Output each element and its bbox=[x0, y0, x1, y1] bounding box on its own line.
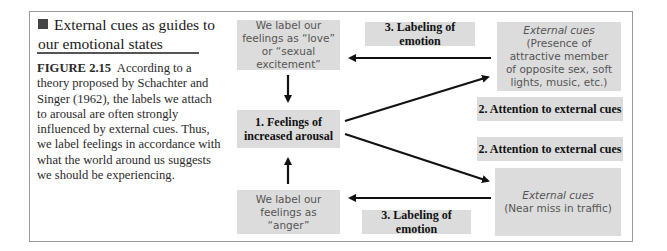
external-cues-top-text: External cues (Presence of attractive me… bbox=[503, 24, 615, 89]
attention-top-box: 2. Attention to external cues bbox=[477, 97, 623, 121]
labeling-top-box: 3. Labeling of emotion bbox=[365, 22, 475, 46]
external-cues-top-heading: External cues bbox=[523, 24, 594, 36]
external-cues-bottom-detail: (Near miss in traffic) bbox=[504, 202, 612, 215]
labeling-bottom-text: 3. Labeling of emotion bbox=[362, 208, 471, 236]
arrow-diagonal-up-icon bbox=[345, 77, 488, 121]
label-anger-box: We label our feelings as “anger” bbox=[237, 190, 340, 234]
label-anger-text: We label our feelings as “anger” bbox=[247, 193, 330, 232]
arousal-box: 1. Feelings of increased arousal bbox=[237, 110, 340, 148]
external-cues-top-box: External cues (Presence of attractive me… bbox=[497, 22, 621, 91]
labeling-bottom-box: 3. Labeling of emotion bbox=[362, 210, 471, 234]
arousal-text: 1. Feelings of increased arousal bbox=[243, 115, 334, 143]
external-cues-bottom-heading: External cues bbox=[522, 189, 593, 202]
external-cues-top-detail: (Presence of attractive member of opposi… bbox=[506, 37, 612, 88]
arrow-diagonal-down-icon bbox=[345, 134, 488, 181]
attention-bottom-box: 2. Attention to external cues bbox=[477, 137, 623, 161]
label-love-box: We label our feelings as “love” or “sexu… bbox=[237, 20, 340, 70]
labeling-top-text: 3. Labeling of emotion bbox=[365, 20, 475, 48]
label-love-text: We label our feelings as “love” or “sexu… bbox=[241, 19, 336, 71]
attention-bottom-text: 2. Attention to external cues bbox=[479, 142, 622, 156]
external-cues-bottom-box: External cues(Near miss in traffic) bbox=[495, 168, 621, 236]
attention-top-text: 2. Attention to external cues bbox=[479, 102, 622, 116]
